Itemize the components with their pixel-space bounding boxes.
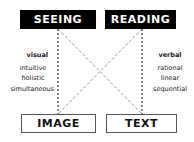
visual-heading: visual [4,50,54,61]
attribute-item: simultaneous [4,84,54,95]
attribute-item: holistic [4,73,54,84]
attribute-item: linear [148,73,192,84]
text-label: TEXT [125,117,158,130]
attribute-item: sequential [148,84,192,95]
verbal-heading: verbal [148,50,192,61]
reading-box: READING [105,10,176,29]
seeing-box: SEEING [20,10,96,29]
left-attributes: visual intuitive holistic simultaneous [4,50,54,94]
attribute-item: intuitive [4,63,54,74]
reading-label: READING [111,13,170,26]
text-box: TEXT [106,114,177,133]
attribute-item: rational [148,63,192,74]
seeing-label: SEEING [34,13,82,26]
image-label: IMAGE [37,117,80,130]
image-box: IMAGE [21,114,96,133]
right-attributes: verbal rational linear sequential [148,50,192,94]
